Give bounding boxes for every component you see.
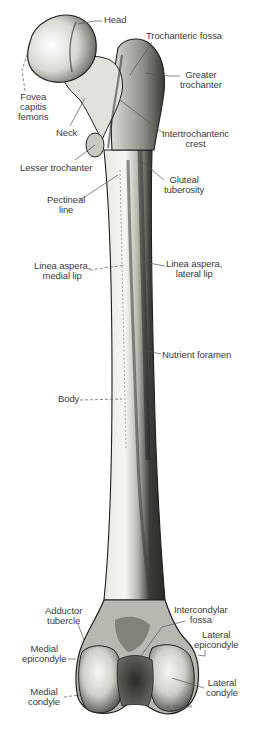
leader-line-fovea-capitis-femoris xyxy=(22,52,28,91)
label-medial-condyle: Medial condyle xyxy=(28,687,60,707)
label-intercondylar-fossa: Intercondylar fossa xyxy=(174,605,228,625)
intercondylar-fossa-shape xyxy=(117,656,153,707)
label-medial-epicondyle: Medial epicondyle xyxy=(22,644,66,664)
label-gluteal-tuberosity: Gluteal tuberosity xyxy=(164,175,204,195)
leader-line-adductor-tubercle xyxy=(78,624,84,640)
femur-diagram: Head Trochanteric fossa Greater trochant… xyxy=(0,0,255,731)
label-lesser-trochanter: Lesser trochanter xyxy=(20,163,92,173)
label-nutrient-foramen: Nutrient foramen xyxy=(162,350,231,360)
label-adductor-tubercle: Adductor tubercle xyxy=(45,606,82,626)
label-pectineal-line: Pectineal line xyxy=(47,195,85,215)
label-linea-aspera-lateral-lip: Linea aspera, lateral lip xyxy=(166,259,222,279)
femoral-head-shape xyxy=(28,15,97,82)
lateral-condyle-shape xyxy=(148,645,194,712)
illustrator-signature: W. SKIDDER xyxy=(166,704,193,709)
leader-line-lateral-epicondyle xyxy=(198,650,205,656)
label-head: Head xyxy=(104,15,126,25)
label-neck: Neck xyxy=(56,128,77,138)
label-body: Body xyxy=(58,394,79,404)
label-greater-trochanter: Greater trochanter xyxy=(180,70,222,90)
label-fovea-capitis-femoris: Fovea capitis femoris xyxy=(18,92,48,122)
leader-line-neck xyxy=(70,98,85,126)
label-lateral-condyle: Lateral condyle xyxy=(206,678,238,698)
label-lateral-epicondyle: Lateral epicondyle xyxy=(194,630,238,650)
label-linea-aspera-medial-lip: Linea aspera, medial lip xyxy=(34,261,90,281)
label-trochanteric-fossa: Trochanteric fossa xyxy=(146,31,222,41)
medial-condyle-shape xyxy=(79,646,122,713)
label-intertrochanteric-crest: Intertrochanteric crest xyxy=(162,129,229,149)
